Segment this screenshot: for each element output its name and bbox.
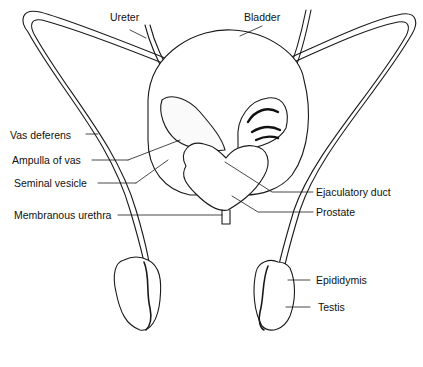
label-bladder: Bladder — [244, 11, 280, 23]
label-vas-deferens: Vas deferens — [10, 129, 71, 141]
label-ureter: Ureter — [110, 11, 139, 23]
label-testis: Testis — [318, 301, 345, 313]
label-prostate: Prostate — [316, 206, 355, 218]
label-seminal-vesicle: Seminal vesicle — [14, 177, 87, 189]
label-epididymis: Epididymis — [316, 274, 367, 286]
vas-deferens-left — [23, 11, 170, 290]
label-ampulla-of-vas: Ampulla of vas — [12, 154, 81, 166]
anatomy-diagram: Ureter Bladder Vas deferens Ampulla of v… — [0, 0, 423, 367]
testis-left — [114, 257, 160, 330]
testis-right — [254, 260, 295, 330]
membranous-urethra — [222, 210, 230, 224]
label-membranous-urethra: Membranous urethra — [14, 209, 111, 221]
label-ejaculatory-duct: Ejaculatory duct — [316, 186, 391, 198]
